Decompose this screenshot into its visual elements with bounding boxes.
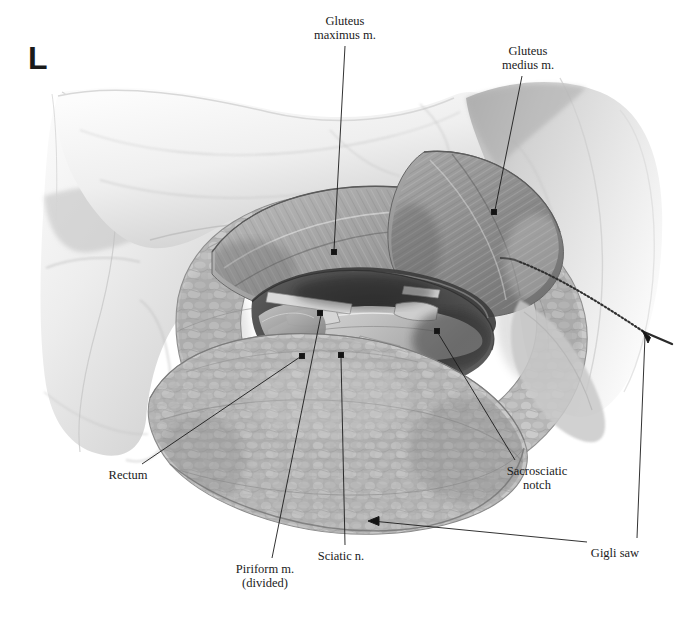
superior-skin-flap <box>56 88 502 249</box>
wound-cavity <box>242 271 494 398</box>
label-gluteus-medius: Gluteus medius m. <box>458 44 598 72</box>
leader-sacrosciatic-notch <box>435 329 516 461</box>
subcutaneous-fat-ring <box>170 192 587 508</box>
gigli-saw-wire <box>500 258 672 344</box>
label-gluteus-maximus: Gluteus maximus m. <box>275 14 415 42</box>
leader-gluteus-maximus <box>332 46 346 255</box>
label-sciatic-nerve: Sciatic n. <box>271 549 411 563</box>
lateral-tissue-bridge <box>511 300 605 442</box>
label-gigli-saw: Gigli saw <box>545 546 685 560</box>
gluteus-medius-muscle <box>380 130 590 330</box>
leader-piriform-muscle <box>272 311 323 559</box>
orientation-marker-left: L <box>28 42 48 74</box>
leader-rectum <box>142 354 305 465</box>
label-piriform-muscle: Piriform m. (divided) <box>195 562 335 590</box>
gluteus-maximus-muscle <box>200 170 530 340</box>
figure-canvas: L Gluteus maximus m.Gluteus medius m.Rec… <box>0 0 700 617</box>
cut-muscle-edge <box>252 267 496 351</box>
label-sacrosciatic-notch: Sacrosciatic notch <box>467 464 607 492</box>
anatomical-illustration <box>0 0 700 617</box>
leader-sciatic-nerve <box>339 353 346 546</box>
right-skin-flap <box>466 78 662 417</box>
inferior-fat-mass <box>140 320 540 550</box>
label-rectum: Rectum <box>58 468 198 482</box>
leader-gigli-saw <box>368 330 651 542</box>
leader-gluteus-medius <box>492 76 523 215</box>
left-skin-flap <box>41 90 291 462</box>
